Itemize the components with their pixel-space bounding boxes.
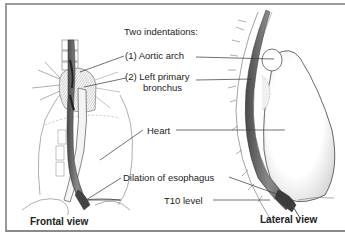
frontal-view-drawing bbox=[22, 40, 133, 215]
lateral-view-drawing bbox=[228, 10, 335, 222]
label-aortic-arch: (1) Aortic arch bbox=[125, 50, 184, 61]
label-left-primary-bronchus-line2: bronchus bbox=[143, 82, 182, 93]
label-dilation-of-esophagus: Dilation of esophagus bbox=[123, 172, 214, 183]
two-indentations-heading: Two indentations: bbox=[124, 26, 198, 37]
label-t10-level: T10 level bbox=[164, 195, 203, 206]
lateral-view-caption: Lateral view bbox=[260, 214, 317, 225]
label-left-primary-bronchus-line1: (2) Left primary bbox=[125, 71, 189, 82]
label-heart: Heart bbox=[147, 125, 170, 136]
frontal-view-caption: Frontal view bbox=[30, 216, 88, 227]
